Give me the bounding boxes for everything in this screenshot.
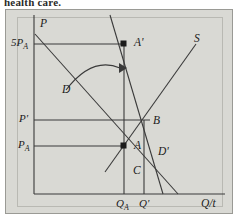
y-tick-Pprime-main: P' xyxy=(19,112,28,124)
shift-arrow-head-icon xyxy=(119,63,127,73)
x-tick-QA-sub: A xyxy=(124,203,129,212)
x-tick-Qprime-main: Q' xyxy=(139,197,149,209)
y-tick-5PA-main: 5P xyxy=(11,36,23,48)
curve-label-D: D xyxy=(62,84,70,96)
x-tick-Qprime: Q' xyxy=(139,198,149,209)
curve-label-S: S xyxy=(194,33,200,45)
y-tick-PA-sub: A xyxy=(25,144,30,153)
point-label-A: A xyxy=(134,140,141,152)
y-tick-Pprime: P' xyxy=(19,113,28,124)
point-label-C: C xyxy=(133,165,141,177)
point-label-A-prime: A' xyxy=(134,37,143,49)
plot-svg xyxy=(0,0,239,222)
point-label-B: B xyxy=(153,115,160,127)
x-tick-QA-main: Q xyxy=(116,197,124,209)
figure-root: health care. xyxy=(0,0,239,222)
y-tick-5PA-sub: A xyxy=(23,42,28,51)
x-axis-label: Q/t xyxy=(201,198,216,210)
point-marker-A-prime xyxy=(121,41,127,47)
y-tick-5PA: 5PA xyxy=(11,37,28,51)
curve-label-D-prime: D' xyxy=(158,146,169,158)
x-tick-QA: QA xyxy=(116,198,129,212)
y-tick-PA-main: P xyxy=(18,138,25,150)
point-marker-A xyxy=(121,143,127,149)
y-axis-label: P xyxy=(40,18,47,30)
y-tick-PA: PA xyxy=(18,139,30,153)
